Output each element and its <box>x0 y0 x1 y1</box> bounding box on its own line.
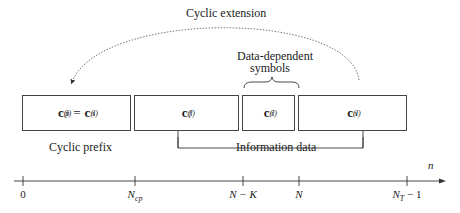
cyclic-extension-arc <box>72 28 359 82</box>
axis-variable-n: n <box>428 159 434 171</box>
tick-n-minus-k: N − K <box>229 188 257 200</box>
box-c-i: c(l)i <box>242 95 295 131</box>
tick-0: 0 <box>20 188 26 200</box>
box-c-s: c(l)s <box>298 95 407 131</box>
cyclic-prefix-label: Cyclic prefix <box>49 140 112 155</box>
information-data-label: Information data <box>236 140 316 155</box>
tick-nt-minus-1: NT − 1 <box>392 188 421 203</box>
cyclic-extension-label: Cyclic extension <box>186 6 266 21</box>
brace <box>244 77 299 88</box>
tick-ncp: Ncp <box>128 188 143 203</box>
tick-n: N <box>295 188 302 200</box>
box-cyclic-prefix: c(l)p = c(l)s <box>22 95 131 131</box>
box-c-f: c(l)f <box>134 95 239 131</box>
symbols-label: symbols <box>250 61 290 76</box>
